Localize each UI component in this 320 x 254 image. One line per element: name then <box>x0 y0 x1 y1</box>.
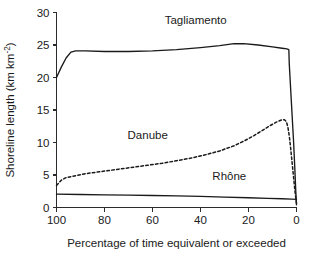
x-axis-title: Percentage of time equivalent or exceede… <box>67 237 286 249</box>
y-axis-ticks: 051015202530 <box>37 7 57 214</box>
x-tick-label: 20 <box>242 214 255 226</box>
y-tick-label: 0 <box>43 202 49 214</box>
series-label-tagliamento: Tagliamento <box>165 14 227 26</box>
series-line-tagliamento <box>57 44 297 205</box>
y-tick-label: 20 <box>37 72 50 84</box>
y-axis-title-tail: ) <box>4 42 16 46</box>
y-axis-title-main: Shoreline length (km km <box>4 54 16 178</box>
series-annotations: TagliamentoDanubeRhône <box>128 14 247 182</box>
series-line-danube <box>57 120 297 204</box>
y-axis-title: Shoreline length (km km-2) <box>3 42 16 177</box>
x-tick-label: 0 <box>293 214 299 226</box>
y-tick-label: 10 <box>37 137 50 149</box>
y-tick-label: 25 <box>37 39 50 51</box>
x-axis-ticks: 100806040200 <box>47 208 300 226</box>
y-tick-label: 5 <box>43 169 49 181</box>
chart-container: 051015202530 100806040200 TagliamentoDan… <box>0 0 320 254</box>
x-tick-label: 100 <box>47 214 66 226</box>
series-label-rhône: Rhône <box>212 170 246 182</box>
x-tick-label: 60 <box>146 214 159 226</box>
svg-text:Shoreline length (km km-2): Shoreline length (km km-2) <box>3 42 16 177</box>
series-label-danube: Danube <box>128 129 168 141</box>
y-tick-label: 15 <box>37 104 50 116</box>
x-tick-label: 40 <box>194 214 207 226</box>
series-line-rhône <box>57 194 297 199</box>
line-chart: 051015202530 100806040200 TagliamentoDan… <box>0 0 320 254</box>
series-group <box>57 44 297 205</box>
x-tick-label: 80 <box>98 214 111 226</box>
y-tick-label: 30 <box>37 7 50 19</box>
